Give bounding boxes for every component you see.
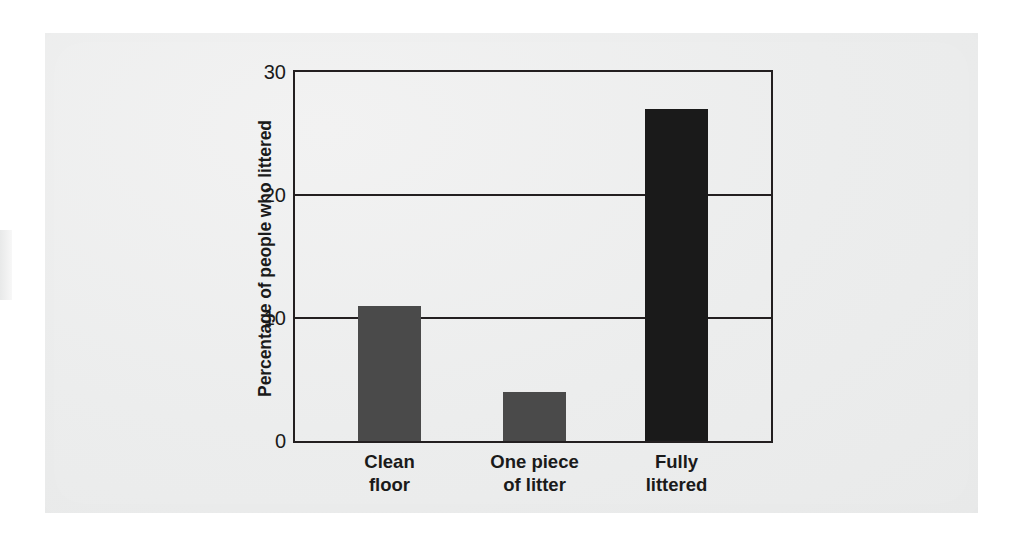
bar-fully-littered [645, 109, 708, 441]
x-label-line-2: floor [364, 473, 414, 496]
y-tick-label-20: 20 [264, 184, 286, 207]
bar-chart: Percentage of people who littered 0 10 2… [0, 0, 1022, 542]
plot-area: Percentage of people who littered 0 10 2… [293, 70, 773, 443]
y-axis-title: Percentage of people who littered [250, 72, 280, 445]
bar-one-piece-of-litter [503, 392, 566, 441]
x-label-line-1: Fully [646, 450, 708, 473]
y-tick-label-0: 0 [275, 430, 286, 453]
x-label-line-2: littered [646, 473, 708, 496]
x-label-line-1: One piece [490, 450, 578, 473]
x-label-clean-floor: Clean floor [364, 450, 414, 497]
x-label-line-1: Clean [364, 450, 414, 473]
y-tick-label-30: 30 [264, 61, 286, 84]
bar-clean-floor [358, 306, 421, 441]
page-root: Percentage of people who littered 0 10 2… [0, 0, 1022, 542]
x-label-fully-littered: Fully littered [646, 450, 708, 497]
y-tick-label-10: 10 [264, 307, 286, 330]
x-label-one-piece-of-litter: One piece of litter [490, 450, 578, 497]
x-label-line-2: of litter [490, 473, 578, 496]
